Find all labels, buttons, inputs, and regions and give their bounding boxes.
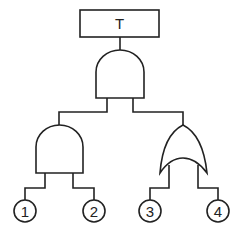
fault-tree-diagram: T 1 2 3 4	[0, 0, 238, 238]
and-gate-icon	[36, 125, 83, 173]
top-event-label: T	[115, 15, 124, 32]
basic-event-4: 4	[207, 200, 229, 222]
connector-line	[25, 173, 45, 200]
and-gate-icon	[96, 50, 144, 98]
or-gate-icon	[160, 125, 207, 173]
top-event: T	[80, 10, 159, 37]
svg-text:2: 2	[90, 203, 98, 220]
svg-text:1: 1	[21, 203, 29, 220]
connector-line	[73, 173, 94, 200]
svg-text:4: 4	[214, 203, 222, 220]
connector-line	[198, 165, 218, 200]
basic-event-2: 2	[83, 200, 105, 222]
basic-event-3: 3	[139, 200, 161, 222]
connector-line	[59, 98, 107, 125]
basic-event-1: 1	[14, 200, 36, 222]
svg-text:3: 3	[146, 203, 154, 220]
connector-line	[133, 98, 183, 125]
